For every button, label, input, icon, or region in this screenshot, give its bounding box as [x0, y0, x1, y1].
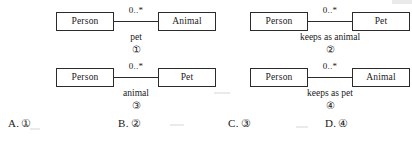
diagram-number-3: ③	[132, 101, 141, 111]
option-d-value: ④	[338, 117, 348, 129]
association-role-label: animal	[123, 89, 149, 99]
association-role-label: keeps as animal	[300, 33, 360, 43]
option-d-letter: D.	[325, 117, 336, 129]
class-box-left: Person	[56, 12, 114, 31]
option-c-value: ③	[241, 117, 251, 129]
association-row: Person Pet 0..*	[56, 67, 216, 88]
diagram-number-1: ①	[132, 45, 141, 55]
multiplicity-label: 0..*	[129, 62, 144, 71]
class-box-right: Animal	[352, 68, 410, 87]
answer-option-b[interactable]: B.②	[118, 118, 141, 129]
association-line	[308, 21, 352, 22]
association-role-label: keeps as pet	[307, 89, 353, 99]
answer-option-d[interactable]: D.④	[325, 118, 349, 129]
uml-diagram-2: Person Pet 0..* keeps as animal ②	[250, 6, 410, 58]
option-c-letter: C.	[228, 117, 239, 129]
option-b-letter: B.	[118, 117, 129, 129]
answer-options-row: A.① B.② C.③ D.④	[0, 114, 412, 141]
class-box-left: Person	[56, 68, 114, 87]
association-line	[308, 77, 352, 78]
multiplicity-label: 0..*	[323, 62, 338, 71]
class-box-left: Person	[250, 68, 308, 87]
multiplicity-label: 0..*	[129, 6, 144, 15]
uml-diagram-3: Person Pet 0..* animal ③	[56, 62, 216, 114]
uml-diagram-grid: Person Animal 0..* pet ① Person Pet 0..*…	[0, 0, 412, 112]
association-row: Person Animal 0..*	[56, 11, 216, 32]
association-role-label: pet	[130, 33, 142, 43]
class-box-right: Pet	[158, 68, 216, 87]
option-a-letter: A.	[8, 117, 19, 129]
uml-diagram-4: Person Animal 0..* keeps as pet ④	[250, 62, 410, 114]
class-box-right: Animal	[158, 12, 216, 31]
class-box-right: Pet	[352, 12, 410, 31]
diagram-number-2: ②	[326, 45, 335, 55]
multiplicity-label: 0..*	[323, 6, 338, 15]
diagram-number-4: ④	[326, 101, 335, 111]
association-row: Person Pet 0..*	[250, 11, 410, 32]
answer-option-c[interactable]: C.③	[228, 118, 251, 129]
association-row: Person Animal 0..*	[250, 67, 410, 88]
option-b-value: ②	[131, 117, 141, 129]
answer-option-a[interactable]: A.①	[8, 118, 32, 129]
uml-diagram-1: Person Animal 0..* pet ①	[56, 6, 216, 58]
association-line	[114, 77, 158, 78]
association-line	[114, 21, 158, 22]
class-box-left: Person	[250, 12, 308, 31]
option-a-value: ①	[21, 117, 31, 129]
